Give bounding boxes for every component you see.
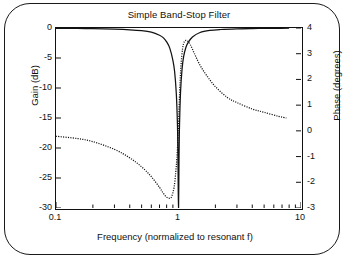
y-tick-label-left: -30: [39, 202, 52, 212]
y-axis-label-right: Phase (degrees): [331, 31, 342, 141]
y-tick-label-right: -1: [307, 151, 315, 161]
y-tick-label-right: 0: [307, 125, 312, 135]
plot-area: [55, 27, 303, 210]
y-tick-label-right: 3: [307, 48, 312, 58]
x-axis-ticks: 0.1110: [55, 212, 303, 226]
y-tick-label-right: -3: [307, 202, 315, 212]
y-tick-label-left: -15: [39, 112, 52, 122]
x-tick-label: 1: [175, 212, 180, 222]
y-tick-label-left: -20: [39, 142, 52, 152]
plot-canvas: [56, 28, 301, 208]
chart-title: Simple Band-Stop Filter: [55, 9, 303, 20]
y-tick-label-right: 1: [307, 99, 312, 109]
y-tick-label-right: 2: [307, 73, 312, 83]
chart-figure: Simple Band-Stop Filter Gain (dB) Phase …: [0, 0, 345, 260]
y-tick-label-left: 0: [47, 22, 52, 32]
y-tick-label-left: -10: [39, 82, 52, 92]
y-tick-label-left: -25: [39, 172, 52, 182]
y-axis-ticks-left: 0-5-10-15-20-25-30: [28, 27, 52, 210]
y-tick-label-right: -2: [307, 176, 315, 186]
series-line-gain: [56, 28, 289, 208]
x-tick-label: 0.1: [49, 212, 62, 222]
y-axis-ticks-right: 43210-1-2-3: [307, 27, 331, 210]
x-tick-label: 10: [295, 212, 305, 222]
series-line-phase: [56, 40, 286, 198]
y-tick-label-right: 4: [307, 22, 312, 32]
y-tick-label-left: -5: [44, 52, 52, 62]
x-axis-label: Frequency (normalized to resonant f): [30, 231, 320, 242]
